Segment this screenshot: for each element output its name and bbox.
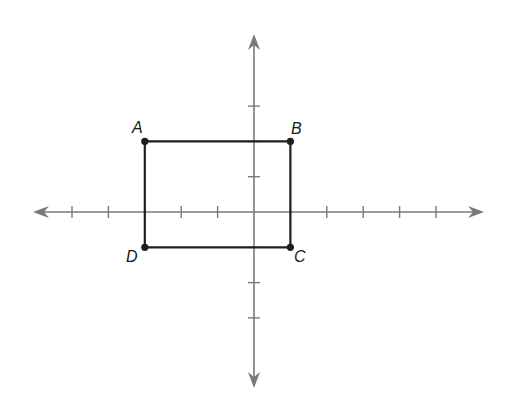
rectangle-abcd xyxy=(141,138,294,251)
vertex-label-b: B xyxy=(291,121,302,137)
vertex-point-b xyxy=(287,138,294,145)
rectangle-outline xyxy=(145,141,291,247)
coordinate-plane xyxy=(0,0,513,411)
vertex-point-c xyxy=(287,244,294,251)
vertex-label-d: D xyxy=(126,249,138,265)
axes xyxy=(33,34,484,388)
vertex-point-d xyxy=(141,244,148,251)
vertex-point-a xyxy=(141,138,148,145)
vertex-label-a: A xyxy=(132,120,143,136)
vertex-label-c: C xyxy=(294,249,306,265)
